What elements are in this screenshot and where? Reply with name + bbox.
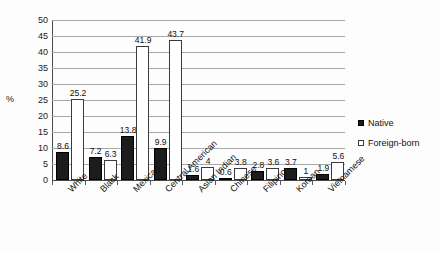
y-axis-tick-label: 50 bbox=[28, 16, 48, 25]
bar-native[interactable] bbox=[56, 152, 69, 180]
x-axis-tick-mark bbox=[247, 181, 248, 185]
x-axis-tick-mark bbox=[215, 181, 216, 185]
bar-foreign[interactable] bbox=[136, 46, 149, 180]
filled-square-icon bbox=[358, 120, 364, 126]
legend-item-label: Foreign-born bbox=[368, 138, 420, 148]
bar-native[interactable] bbox=[89, 157, 102, 180]
bar-group: 1.95.6 bbox=[312, 20, 345, 180]
y-axis-tick-label: 5 bbox=[28, 160, 48, 169]
y-axis-title: % bbox=[6, 95, 14, 104]
bar-chart: % 05101520253035404550 8.625.27.26.313.8… bbox=[0, 0, 440, 254]
legend-item-label: Native bbox=[368, 118, 394, 128]
x-axis-tick-mark bbox=[312, 181, 313, 185]
bar-native[interactable] bbox=[121, 136, 134, 180]
x-axis-tick-mark bbox=[52, 181, 53, 185]
legend-item[interactable]: Native bbox=[358, 118, 438, 128]
x-axis-tick-mark bbox=[117, 181, 118, 185]
y-axis-tick-label: 40 bbox=[28, 48, 48, 57]
chart-legend: NativeForeign-born bbox=[358, 118, 438, 158]
bar-group: 3.71 bbox=[280, 20, 313, 180]
bar-value-label: 3.7 bbox=[278, 158, 304, 167]
bar-native[interactable] bbox=[219, 178, 232, 180]
legend-item[interactable]: Foreign-born bbox=[358, 138, 438, 148]
bar-group: 13.841.9 bbox=[117, 20, 150, 180]
bar-value-label: 5.6 bbox=[325, 152, 351, 161]
y-axis-tick-label: 35 bbox=[28, 64, 48, 73]
y-axis-tick-label: 20 bbox=[28, 112, 48, 121]
x-axis-tick-mark bbox=[85, 181, 86, 185]
y-axis-tick-label: 25 bbox=[28, 96, 48, 105]
y-axis-tick-label: 45 bbox=[28, 32, 48, 41]
bar-group: 2.83.6 bbox=[247, 20, 280, 180]
open-square-icon bbox=[358, 140, 364, 146]
x-axis-tick-mark bbox=[280, 181, 281, 185]
y-axis-tick-label: 15 bbox=[28, 128, 48, 137]
x-axis-tick-mark bbox=[150, 181, 151, 185]
y-axis-tick-labels: 05101520253035404550 bbox=[22, 20, 48, 180]
y-axis-tick-label: 0 bbox=[28, 176, 48, 185]
y-axis-tick-label: 30 bbox=[28, 80, 48, 89]
y-axis-tick-label: 10 bbox=[28, 144, 48, 153]
x-axis-tick-mark bbox=[345, 181, 346, 185]
bar-group: 8.625.2 bbox=[52, 20, 85, 180]
bar-group: 7.26.3 bbox=[85, 20, 118, 180]
bar-foreign[interactable] bbox=[169, 40, 182, 180]
bar-foreign[interactable] bbox=[71, 99, 84, 180]
x-axis-tick-mark bbox=[182, 181, 183, 185]
bar-group: 9.943.7 bbox=[150, 20, 183, 180]
